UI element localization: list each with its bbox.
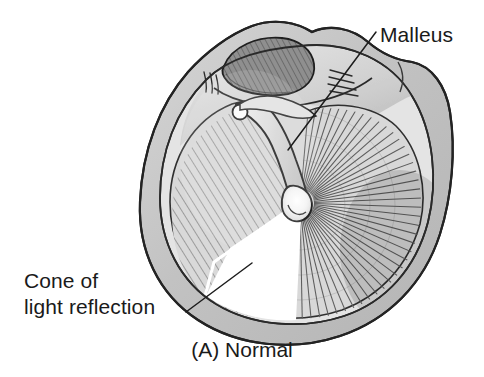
illustration-canvas: Malleus Cone of light reflection (A) Nor…	[0, 0, 484, 377]
cone-of-light-label-line1: Cone of	[24, 269, 98, 292]
cone-of-light-label-line2: light reflection	[24, 295, 155, 318]
figure-caption: (A) Normal	[191, 338, 293, 361]
tympanic-membrane-figure: Malleus Cone of light reflection (A) Nor…	[0, 0, 484, 377]
malleus-label: Malleus	[380, 23, 453, 46]
